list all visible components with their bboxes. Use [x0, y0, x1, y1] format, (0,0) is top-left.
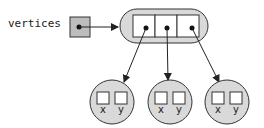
point-object-3	[205, 80, 249, 124]
field-label-x: x	[100, 104, 106, 115]
field-label-y: y	[176, 104, 182, 115]
field-label-x: x	[215, 104, 221, 115]
field-label-y: y	[118, 104, 124, 115]
array-object	[120, 9, 208, 43]
reference-box	[70, 17, 118, 37]
point-object-2	[148, 80, 192, 124]
field-label-y: y	[233, 104, 239, 115]
point-object-1	[90, 80, 134, 124]
diagram-canvas	[0, 0, 264, 128]
field-label-x: x	[158, 104, 164, 115]
